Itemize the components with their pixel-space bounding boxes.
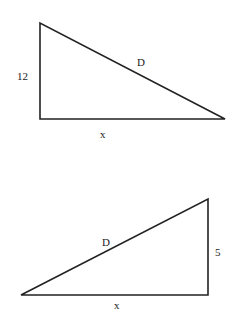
triangle-top-vertical-label: 12 bbox=[17, 71, 28, 82]
triangle-top-base-label: x bbox=[100, 129, 106, 140]
diagram-canvas: 12 D x D 5 x bbox=[0, 0, 240, 324]
triangle-bottom-vertical-label: 5 bbox=[215, 247, 221, 258]
triangle-bottom-hypotenuse-label: D bbox=[102, 237, 110, 248]
triangle-bottom-shape bbox=[21, 199, 208, 295]
triangle-top-shape bbox=[40, 23, 225, 119]
triangle-bottom-base-label: x bbox=[114, 300, 120, 311]
triangles-drawing bbox=[0, 0, 240, 324]
triangle-top-hypotenuse-label: D bbox=[137, 57, 145, 68]
